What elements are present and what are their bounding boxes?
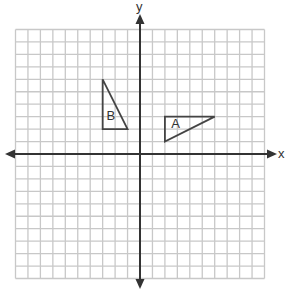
y-axis-down-arrow-icon [136, 279, 145, 289]
x-axis-label: x [278, 146, 285, 161]
shapes: A B [103, 79, 215, 141]
y-axis-up-arrow-icon [136, 14, 145, 24]
y-axis-label: y [136, 0, 143, 14]
triangle-b-label: B [106, 108, 115, 123]
axes: x y [5, 0, 285, 289]
coordinate-plane: x y A B [0, 0, 286, 295]
triangle-a-label: A [171, 116, 180, 131]
x-axis-left-arrow-icon [5, 150, 15, 159]
x-axis-right-arrow-icon [267, 150, 277, 159]
